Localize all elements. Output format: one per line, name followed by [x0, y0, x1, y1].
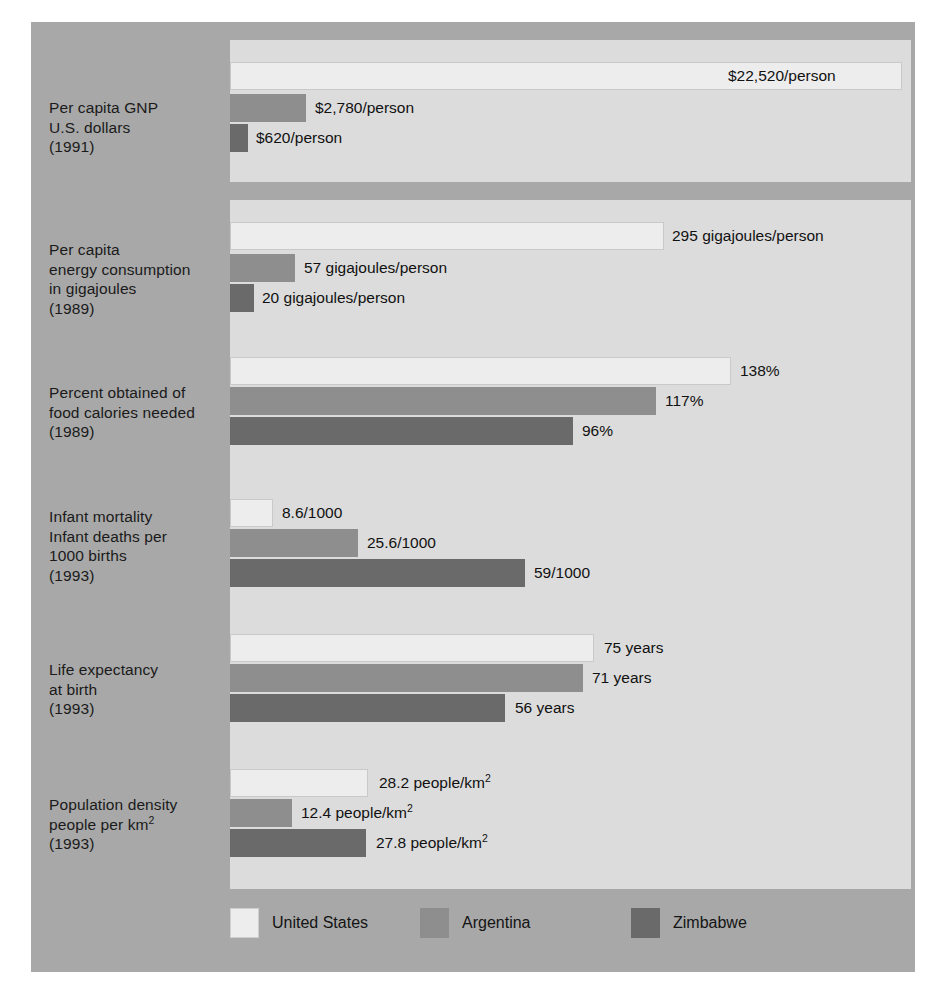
bar-value-zimbabwe: 20 gigajoules/person — [262, 284, 405, 312]
bar-value-argentina: 117% — [665, 387, 704, 415]
chart-group-food-calories: Percent obtained of food calories needed… — [31, 335, 915, 483]
bar-zimbabwe — [230, 417, 573, 445]
group-label: Per capita GNP U.S. dollars (1991) — [49, 98, 158, 157]
legend-swatch-argentina — [420, 908, 449, 938]
bar-chart-figure: Per capita GNP U.S. dollars (1991) $22,5… — [0, 0, 940, 994]
bar-argentina — [230, 387, 656, 415]
bar-united-states — [230, 634, 594, 662]
bar-value-united-states: $22,520/person — [728, 62, 836, 90]
bar-value-zimbabwe: 56 years — [515, 694, 574, 722]
legend-swatch-united-states — [230, 908, 259, 938]
group-label: Percent obtained of food calories needed… — [49, 383, 195, 442]
bar-value-united-states: 138% — [740, 357, 780, 385]
chart-legend: United States Argentina Zimbabwe — [31, 906, 915, 966]
group-label: Life expectancy at birth (1993) — [49, 660, 158, 719]
chart-group-life-expectancy: Life expectancy at birth (1993) 75 years… — [31, 612, 915, 760]
group-label: Infant mortality Infant deaths per 1000 … — [49, 507, 167, 585]
bar-value-argentina: 12.4 people/km2 — [301, 799, 413, 827]
bar-zimbabwe — [230, 559, 525, 587]
bar-united-states — [230, 357, 731, 385]
bar-united-states — [230, 499, 273, 527]
bar-argentina — [230, 664, 583, 692]
bar-value-argentina: 71 years — [592, 664, 651, 692]
bar-value-zimbabwe: 27.8 people/km2 — [376, 829, 488, 857]
bar-value-united-states: 75 years — [604, 634, 663, 662]
bar-zimbabwe — [230, 829, 366, 857]
legend-label-zimbabwe: Zimbabwe — [673, 906, 747, 940]
bar-argentina — [230, 94, 306, 122]
bar-zimbabwe — [230, 694, 505, 722]
bar-value-zimbabwe: 59/1000 — [534, 559, 590, 587]
group-label: Per capita energy consumption in gigajou… — [49, 240, 190, 318]
bar-value-zimbabwe: 96% — [582, 417, 613, 445]
bar-value-united-states: 8.6/1000 — [282, 499, 342, 527]
bar-united-states — [230, 769, 368, 797]
bar-value-united-states: 28.2 people/km2 — [379, 769, 491, 797]
bar-argentina — [230, 254, 295, 282]
bar-value-argentina: 57 gigajoules/person — [304, 254, 447, 282]
superscript-two: 2 — [407, 802, 413, 814]
bar-value-argentina: $2,780/person — [315, 94, 414, 122]
legend-label-united-states: United States — [272, 906, 368, 940]
chart-group-gnp: Per capita GNP U.S. dollars (1991) $22,5… — [31, 40, 915, 188]
group-label: Population densitypeople per km2(1993) — [49, 795, 177, 854]
chart-group-infant-mortality: Infant mortality Infant deaths per 1000 … — [31, 477, 915, 625]
legend-swatch-zimbabwe — [631, 908, 660, 938]
bar-value-united-states: 295 gigajoules/person — [672, 222, 824, 250]
superscript-two: 2 — [482, 832, 488, 844]
bar-value-zimbabwe: $620/person — [256, 124, 342, 152]
superscript-two: 2 — [485, 772, 491, 784]
bar-zimbabwe — [230, 284, 254, 312]
chart-group-population-density: Population densitypeople per km2(1993) 2… — [31, 747, 915, 895]
chart-group-energy: Per capita energy consumption in gigajou… — [31, 200, 915, 348]
bar-zimbabwe — [230, 124, 248, 152]
bar-united-states — [230, 222, 664, 250]
bar-argentina — [230, 529, 358, 557]
bar-argentina — [230, 799, 292, 827]
legend-label-argentina: Argentina — [462, 906, 531, 940]
bar-value-argentina: 25.6/1000 — [367, 529, 436, 557]
chart-plate: Per capita GNP U.S. dollars (1991) $22,5… — [31, 22, 915, 972]
superscript-two: 2 — [149, 813, 155, 825]
